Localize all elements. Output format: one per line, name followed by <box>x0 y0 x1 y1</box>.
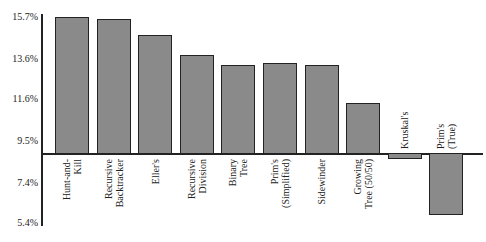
y-tick-label: 9.5% <box>0 136 38 146</box>
bar <box>138 35 172 154</box>
bar <box>221 65 255 154</box>
bar <box>180 55 214 154</box>
y-tick-label: 11.6% <box>0 94 38 104</box>
category-label: Sidewinder <box>316 159 327 223</box>
bar <box>263 63 297 154</box>
category-label: Recursive Division <box>186 159 208 223</box>
category-label: Prim's (True) <box>435 124 457 149</box>
bar <box>305 65 339 154</box>
category-label: Prim's (Simplified) <box>269 159 291 223</box>
category-label: Kruskal's <box>399 112 410 149</box>
bar-chart: 15.7%13.6%11.6%9.5%7.4%5.4% Hunt-and- Ki… <box>0 0 486 242</box>
category-label: Binary Tree <box>227 159 249 223</box>
bar <box>388 153 422 159</box>
bar <box>346 103 380 154</box>
y-tick-label: 15.7% <box>0 12 38 22</box>
bar <box>429 153 463 215</box>
bar <box>55 17 89 154</box>
y-axis-line <box>41 14 43 226</box>
category-label: Recursive Backtracker <box>103 159 125 223</box>
y-tick-label: 7.4% <box>0 178 38 188</box>
category-label: Hunt-and- Kill <box>61 159 83 223</box>
category-label: Growing Tree (50/50) <box>352 159 374 223</box>
y-tick-label: 5.4% <box>0 218 38 228</box>
category-label: Eller's <box>150 159 161 223</box>
bar <box>97 19 131 154</box>
y-tick-label: 13.6% <box>0 54 38 64</box>
